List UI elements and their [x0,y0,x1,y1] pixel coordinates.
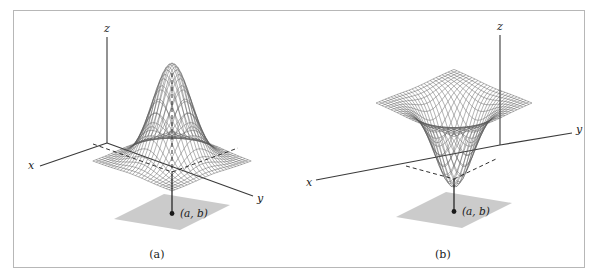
point-ab-marker-a [170,211,175,216]
surface-mesh-b [376,69,532,187]
point-ab-label-b: (a, b) [462,205,490,217]
y-axis-b [500,133,572,145]
point-ab-marker-b [452,209,457,214]
x-axis-label-a: x [28,159,35,172]
figure-root: z x y (a, b) (a) [0,0,598,279]
panel-a-local-maximum: z x y (a, b) (a) [14,11,300,269]
y-axis-label-b: y [575,123,583,136]
z-axis-label-b: z [496,20,503,33]
projection-guides-b [406,159,496,179]
y-axis-label-a: y [256,192,264,205]
panel-b-local-minimum: z x y (a, b) (b) [300,11,586,269]
panel-b-plot: z x y (a, b) [300,11,586,269]
panel-caption-a: (a) [14,248,300,261]
z-axis-label-a: z [103,22,110,35]
guide-line-a-1 [93,144,172,172]
panel-a-plot: z x y (a, b) [14,11,300,269]
point-ab-label-a: (a, b) [180,207,208,219]
figure-frame: z x y (a, b) (a) [13,10,585,268]
x-axis-label-b: x [306,176,313,189]
panel-caption-b: (b) [300,248,586,261]
